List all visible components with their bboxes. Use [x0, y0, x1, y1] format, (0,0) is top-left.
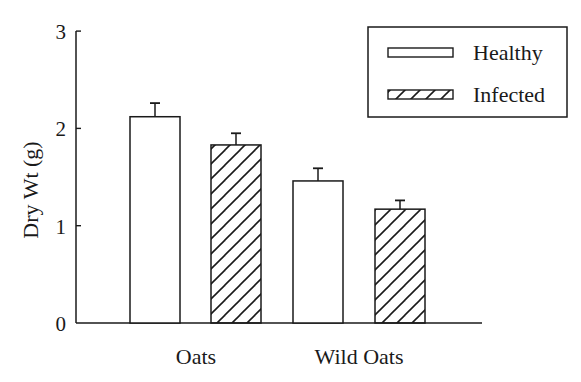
bar-wild-oats-infected — [375, 200, 425, 323]
category-label: Wild Oats — [315, 344, 404, 369]
bar-oats-healthy — [130, 103, 180, 323]
y-tick-label: 1 — [56, 215, 67, 239]
bar-rect — [211, 145, 261, 323]
category-label: Oats — [176, 344, 216, 369]
y-tick-label: 3 — [56, 20, 67, 44]
legend-label-healthy: Healthy — [473, 40, 543, 65]
bar-chart: Dry Wt (g) 0123 OatsWild Oats Healthy In… — [0, 0, 581, 382]
bar-rect — [293, 181, 343, 323]
legend: Healthy Infected — [368, 27, 567, 117]
legend-label-infected: Infected — [473, 82, 545, 107]
bar-rect — [375, 209, 425, 323]
category-labels: OatsWild Oats — [176, 344, 404, 369]
bar-wild-oats-healthy — [293, 168, 343, 323]
bars — [130, 103, 425, 323]
legend-swatch-healthy — [388, 48, 453, 57]
y-tick-label: 2 — [56, 117, 67, 141]
bar-rect — [130, 117, 180, 323]
y-tick-label: 0 — [56, 312, 67, 336]
bar-oats-infected — [211, 133, 261, 323]
y-axis-label: Dry Wt (g) — [18, 141, 43, 238]
legend-swatch-infected — [388, 90, 453, 99]
y-ticks: 0123 — [56, 20, 82, 336]
